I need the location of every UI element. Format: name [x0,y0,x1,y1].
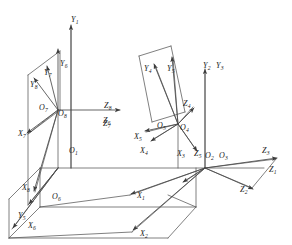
origin-subscript: 7 [45,107,48,113]
axis-label-x2: X2 [140,230,148,238]
diagram-container: O1O2O3O4O5O6O7O8Y1Y2Y3Y4Y5Y6Y7Y8Y5X1X2X3… [0,0,292,245]
origin-subscript: 4 [186,127,189,133]
axis-subscript: 5 [23,215,26,221]
axis-base: Y [144,64,148,73]
axis-vector-x1 [131,168,205,194]
axis-subscript: 1 [142,195,145,201]
origin-label-o3: O3 [219,152,228,160]
axis-subscript: 5 [172,68,175,74]
axis-base: Y [167,64,171,73]
axis-subscript: 2 [145,233,148,239]
origin-base: O [205,151,211,160]
origin-label-o4: O4 [180,124,189,132]
axis-label-y5b: Y5 [18,212,25,220]
structure-lines [9,28,276,238]
axis-base: Y [216,61,220,70]
origin-label-o6: O6 [52,193,61,201]
axis-label-z4: Z4 [183,100,190,108]
axis-label-z8: Z8 [104,102,111,110]
axis-vector-z1-z3 [205,158,277,168]
origin-base: O [180,123,186,132]
origin-subscript: 6 [58,196,61,202]
axis-label-y3: Y3 [216,62,223,70]
axis-base: Z [103,119,107,128]
axis-subscript: 3 [182,153,185,159]
axis-subscript: 4 [145,150,148,156]
origin-subscript: 3 [225,155,228,161]
axis-base: Y [203,61,207,70]
axis-label-x7: X7 [18,130,26,138]
axis-base: Y [71,15,75,24]
origin-base: O [219,151,225,160]
origin-base: O [39,103,45,112]
axis-subscript: 8 [27,187,30,193]
origin-label-o7: O7 [39,104,48,112]
axis-label-y7: Y7 [44,69,51,77]
axis-subscript: 7 [49,72,52,78]
axis-subscript: 7 [23,133,26,139]
axis-subscript: 1 [76,19,79,25]
axis-base: Y [30,80,34,89]
axis-label-z7: Z7 [103,120,110,128]
axis-vector-x8 [34,110,58,191]
axis-subscript: 6 [65,63,68,69]
axis-subscript: 2 [245,189,248,195]
origin-label-o1: O1 [69,147,78,155]
axis-subscript: 8 [109,105,112,111]
axis-label-y8: Y8 [30,81,37,89]
axis-base: Y [60,59,64,68]
axis-base: Y [44,68,48,77]
axis-base: Z [183,99,187,108]
axis-vector-x7 [27,110,58,133]
axis-base: Z [240,185,244,194]
origin-base: O [58,109,64,118]
axis-subscript: 3 [221,65,224,71]
origin-base: O [157,121,163,130]
axis-label-y2: Y2 [203,62,210,70]
axis-label-x8: X8 [22,184,30,192]
axis-subscript: 3 [267,150,270,156]
axis-base: Z [194,149,198,158]
axis-label-x5: X5 [134,133,142,141]
base-diagonal-lower [9,232,132,238]
axis-subscript: 4 [149,68,152,74]
origin-subscript: 1 [75,150,78,156]
axis-label-z3: Z3 [262,147,269,155]
axis-label-y6: Y6 [60,60,67,68]
axis-label-x6: X6 [28,222,36,230]
axis-subscript: 7 [108,123,111,129]
axis-base: Z [262,146,266,155]
axis-label-x4: X4 [140,147,148,155]
axis-label-y4: Y4 [144,65,151,73]
axis-label-z2: Z2 [240,186,247,194]
origin-subscript: 5 [163,125,166,131]
axis-subscript: 5 [139,136,142,142]
origin-base: O [69,146,75,155]
axis-subscript: 2 [208,65,211,71]
axis-subscript: 6 [33,225,36,231]
origin-label-o2: O2 [205,152,214,160]
origin-subscript: 8 [64,113,67,119]
axis-base: Z [104,101,108,110]
axis-label-z5: Z5 [194,150,201,158]
origin-subscript: 2 [211,155,214,161]
axis-label-z1: Z1 [269,166,276,174]
axis-label-y5: Y5 [167,65,174,73]
origin-label-o5: O5 [157,122,166,130]
axis-vector-z4 [178,108,194,124]
axis-label-x1: X1 [137,192,145,200]
axis-label-x3: X3 [177,150,185,158]
axis-subscript: 1 [274,169,277,175]
base-right-front-diagonal [168,207,196,238]
axis-base: Y [18,211,22,220]
mid-vertical-plane-top-edge [139,46,171,56]
axis-subscript: 8 [35,84,38,90]
axis-subscript: 4 [188,103,191,109]
coordinate-systems-drawing [0,0,292,245]
origin-base: O [52,192,58,201]
axis-subscript: 5 [199,153,202,159]
origin-label-o8: O8 [58,110,67,118]
axis-label-y1: Y1 [71,16,78,24]
axis-base: Z [269,165,273,174]
